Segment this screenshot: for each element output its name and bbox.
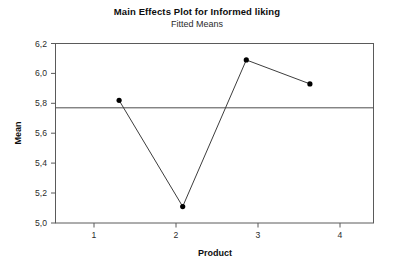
y-tick-label: 5,2 xyxy=(35,188,47,198)
data-point[interactable] xyxy=(307,81,312,86)
data-point[interactable] xyxy=(180,204,185,209)
y-tick-label: 6,2 xyxy=(35,39,47,49)
y-axis-tick-labels: 6,2 6,0 5,8 5,6 5,4 5,2 5,0 xyxy=(35,39,47,229)
x-tick-label: 2 xyxy=(174,230,179,240)
series-line xyxy=(119,60,310,207)
y-axis-title: Mean xyxy=(13,121,23,144)
y-tick-label: 5,0 xyxy=(35,218,47,228)
main-effects-chart: Main Effects Plot for Informed liking Fi… xyxy=(0,0,394,266)
x-tick-label: 3 xyxy=(256,230,261,240)
y-tick-label: 5,8 xyxy=(35,98,47,108)
x-axis-ticks xyxy=(94,223,340,228)
plot-area: 6,2 6,0 5,8 5,6 5,4 5,2 5,0 Mean 1 2 3 4… xyxy=(0,0,394,266)
y-tick-label: 6,0 xyxy=(35,68,47,78)
data-point[interactable] xyxy=(117,98,122,103)
y-tick-label: 5,6 xyxy=(35,128,47,138)
x-tick-label: 1 xyxy=(92,230,97,240)
x-tick-label: 4 xyxy=(338,230,343,240)
x-axis-title: Product xyxy=(198,248,232,258)
data-point[interactable] xyxy=(244,57,249,62)
y-tick-label: 5,4 xyxy=(35,158,47,168)
y-axis-ticks xyxy=(51,44,56,224)
x-axis-tick-labels: 1 2 3 4 xyxy=(92,230,343,240)
